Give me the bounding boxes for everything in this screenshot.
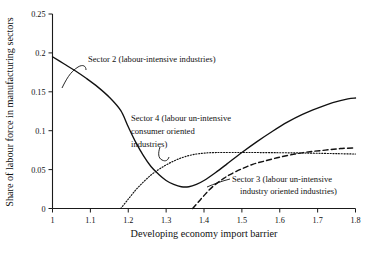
x-tick-label-6: 1.6 (275, 216, 285, 225)
x-axis-title: Developing economy import barrier (131, 228, 278, 239)
chart-figure: 00.050.10.150.20.25 11.11.21.31.41.51.61… (0, 0, 371, 260)
annotation-sector3-line1: Sector 3 (labour un-intensive (232, 174, 332, 184)
x-tick-label-5: 1.5 (237, 216, 247, 225)
x-axis-tick-labels: 11.11.21.31.41.51.61.71.8 (50, 216, 360, 225)
y-axis-title: Share of labour force in manufacturing s… (4, 17, 15, 207)
annotation-sector3-line2: industry oriented industries) (240, 186, 337, 196)
x-tick-label-3: 1.3 (161, 216, 171, 225)
x-tick-label-4: 1.4 (199, 216, 209, 225)
x-axis-ticks (53, 209, 356, 213)
annotation-sector2: Sector 2 (labour-intensive industries) (88, 54, 216, 64)
y-tick-label-4: 0.2 (35, 49, 45, 58)
x-tick-label-7: 1.7 (313, 216, 323, 225)
annotation-sector4-line3: industries) (131, 139, 167, 149)
y-tick-label-2: 0.1 (35, 127, 45, 136)
x-tick-label-2: 1.2 (123, 216, 133, 225)
y-tick-label-1: 0.05 (31, 166, 45, 175)
leader-line-sector3 (207, 179, 230, 187)
y-tick-label-3: 0.15 (31, 88, 45, 97)
line-chart: 00.050.10.150.20.25 11.11.21.31.41.51.61… (0, 0, 371, 260)
x-tick-label-0: 1 (50, 216, 54, 225)
x-tick-label-1: 1.1 (85, 216, 95, 225)
leader-line-sector4 (159, 147, 169, 161)
y-axis-tick-labels: 00.050.10.150.20.25 (31, 10, 45, 214)
x-tick-label-8: 1.8 (350, 216, 360, 225)
annotation-sector4-line2: consumer oriented (131, 126, 195, 136)
y-tick-label-0: 0 (41, 205, 45, 214)
y-tick-label-5: 0.25 (31, 10, 45, 19)
y-axis-ticks (49, 14, 53, 209)
annotation-sector4-line1: Sector 4 (labour un-intensive (131, 113, 231, 123)
leader-line-sector2 (62, 66, 86, 88)
